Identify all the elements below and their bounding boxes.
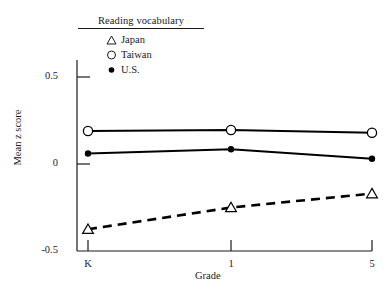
open-circle-icon [226,125,235,134]
series-japan [83,188,378,233]
series-u-s [85,146,375,162]
filled-circle-icon [369,156,375,162]
open-triangle-icon [367,188,378,197]
data-series-layer [83,125,378,233]
plot-area [0,0,390,293]
filled-circle-icon [85,150,91,156]
open-circle-icon [367,128,376,137]
filled-circle-icon [228,146,234,152]
series-taiwan [83,125,376,137]
open-circle-icon [83,126,92,135]
chart-figure: Reading vocabulary Japan Taiwan [0,0,390,293]
x-axis-ticks [88,240,372,251]
